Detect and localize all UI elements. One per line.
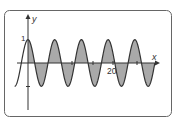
y-axis-label: y xyxy=(31,14,37,24)
x-axis-label: x xyxy=(151,52,157,62)
x-tick-label-20: 20 xyxy=(107,66,117,76)
chart-canvas: y x 1 20 xyxy=(0,0,178,126)
y-tick-label-1: 1 xyxy=(21,34,26,43)
